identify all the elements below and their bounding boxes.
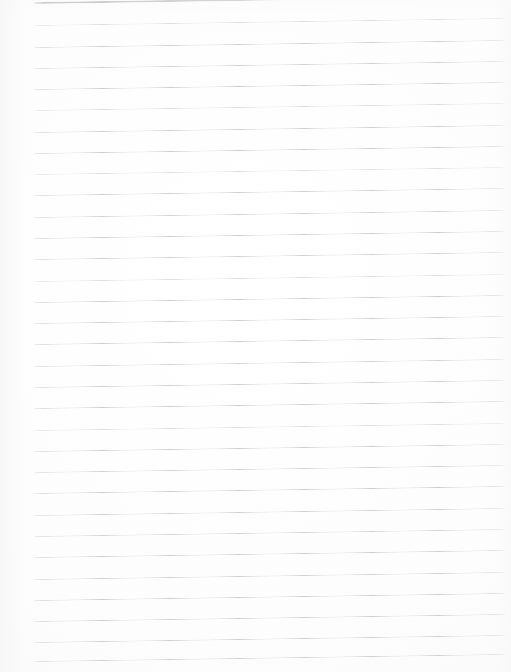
page-text-content: [34, 0, 505, 672]
scanned-page: [0, 0, 511, 672]
